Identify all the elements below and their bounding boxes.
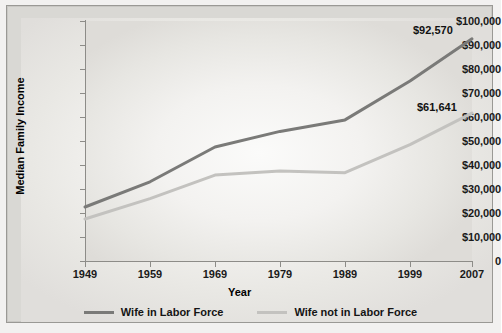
data-label-wife-not-in-labor-force: $61,641: [417, 101, 457, 113]
legend-item-wife-in-labor-force[interactable]: Wife in Labor Force: [84, 306, 224, 318]
data-label-wife-in-labor-force: $92,570: [413, 24, 453, 36]
legend-swatch-icon: [257, 311, 287, 314]
legend-label: Wife in Labor Force: [121, 306, 224, 318]
series-line-wife-in-labor-force: [85, 39, 472, 207]
series-line-wife-not-in-labor-force: [85, 113, 472, 219]
legend-label: Wife not in Labor Force: [294, 306, 417, 318]
legend-swatch-icon: [84, 311, 114, 314]
legend-item-wife-not-in-labor-force[interactable]: Wife not in Labor Force: [257, 306, 417, 318]
chart-legend: Wife in Labor Force Wife not in Labor Fo…: [0, 306, 501, 318]
